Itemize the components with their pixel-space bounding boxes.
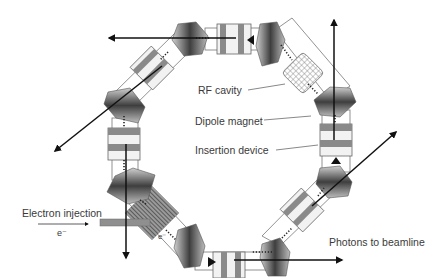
- injection-line: [100, 219, 150, 226]
- insertion-device-left: [108, 128, 140, 160]
- insertion-device-label: Insertion device: [195, 144, 269, 156]
- rf-cavity: [282, 52, 324, 94]
- dipole-magnet-top-right: [256, 22, 285, 66]
- rf-cavity-label: RF cavity: [198, 84, 242, 96]
- dipole-magnet-bottom-left: [174, 224, 205, 268]
- insertion-device-lower-right: [280, 188, 324, 232]
- dipole-magnet-upper-left: [104, 88, 145, 123]
- insertion-device-top: [217, 24, 251, 54]
- electron-symbol-ring-label: e⁻: [158, 232, 166, 241]
- photons-to-beamline-label: Photons to beamline: [329, 236, 425, 248]
- dipole-magnet-top-left: [172, 22, 208, 56]
- insertion-device-bottom: [213, 252, 245, 278]
- electron-injection-label: Electron injection: [22, 207, 102, 219]
- dipole-magnet-left: [107, 168, 155, 204]
- insertion-device-right: [320, 124, 352, 156]
- electron-symbol-label: e⁻: [57, 228, 67, 238]
- dipole-magnet-label: Dipole magnet: [195, 115, 263, 127]
- dipole-magnet-lower-right: [316, 166, 352, 198]
